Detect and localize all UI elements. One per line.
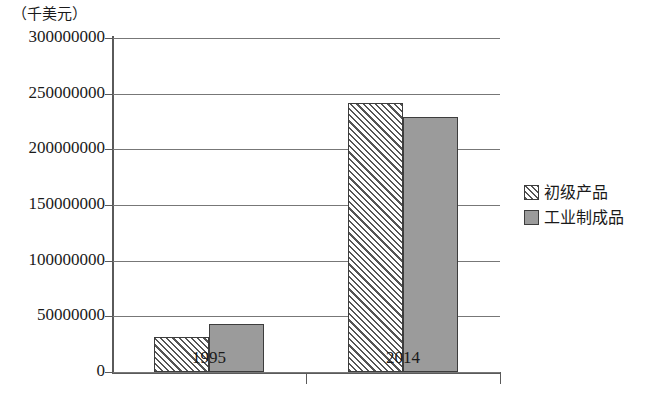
- legend-item: 初级产品: [524, 180, 657, 205]
- x-axis-tick-label: 1995: [149, 348, 269, 368]
- x-axis-tick-label: 2014: [343, 348, 463, 368]
- bar: [403, 117, 458, 372]
- y-axis-tick-mark: [105, 372, 113, 373]
- y-axis-tick-mark: [105, 316, 113, 317]
- legend-swatch-icon: [524, 185, 539, 200]
- legend-swatch-icon: [524, 210, 539, 225]
- y-axis-tick-mark: [105, 205, 113, 206]
- y-axis-tick-label: 150000000: [0, 194, 105, 214]
- legend-label: 工业制成品: [544, 210, 624, 226]
- y-axis-tick-mark: [105, 261, 113, 262]
- bar-chart-figure: （千美元） 0500000001000000001500000002000000…: [0, 0, 657, 401]
- bar: [348, 103, 403, 372]
- y-axis-tick-label: 0: [0, 361, 105, 381]
- plot-area: [112, 38, 500, 372]
- y-axis-tick-mark: [105, 94, 113, 95]
- y-axis-tick-mark: [105, 149, 113, 150]
- legend-item: 工业制成品: [524, 205, 657, 230]
- legend-label: 初级产品: [544, 185, 608, 201]
- y-axis-tick-label: 200000000: [0, 138, 105, 158]
- y-axis-tick-label: 250000000: [0, 83, 105, 103]
- y-axis-unit-caption: （千美元）: [12, 2, 87, 23]
- y-axis-tick-label: 300000000: [0, 27, 105, 47]
- y-axis-tick-mark: [105, 38, 113, 39]
- y-axis-tick-label: 50000000: [0, 305, 105, 325]
- x-axis-separator-tick: [306, 373, 307, 384]
- legend: 初级产品工业制成品: [524, 180, 657, 230]
- gridline: [112, 38, 500, 39]
- gridline: [112, 94, 500, 95]
- x-axis-end-tick: [500, 373, 501, 384]
- y-axis-tick-label: 100000000: [0, 250, 105, 270]
